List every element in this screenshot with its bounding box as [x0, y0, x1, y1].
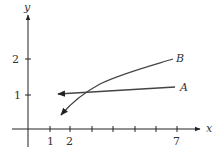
tick-label-y1: 1	[14, 89, 21, 102]
curve-b-label: B	[175, 52, 184, 65]
curve-a-label: A	[179, 81, 188, 94]
y-axis-label: y	[23, 1, 31, 14]
tick-label-x2: 2	[66, 135, 73, 148]
tick-label-x1: 1	[47, 135, 54, 148]
graph: 1 2 7 1 2 x y A B	[0, 0, 220, 157]
tick-label-x7: 7	[173, 135, 180, 148]
tick-label-y2: 2	[12, 53, 19, 66]
x-axis-label: x	[206, 122, 213, 135]
curve-a	[58, 87, 175, 94]
curve-b	[61, 59, 173, 115]
